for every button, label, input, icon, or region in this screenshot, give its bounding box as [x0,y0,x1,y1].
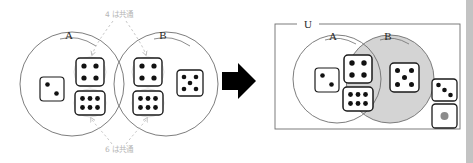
die-a-4 [76,58,104,86]
die-right-6 [343,87,373,111]
left-set-b-label: B [159,29,166,41]
die-right-2 [315,68,339,92]
universe-label: U [304,18,312,30]
die-a-6 [75,91,105,115]
figure-canvas: A B [0,0,473,163]
die-b-5 [177,70,203,96]
die-right-4 [344,55,372,83]
annotation-four-common-label: 4 は共通 [105,9,134,19]
right-set-a-label: A [329,30,337,42]
die-right-5 [390,63,419,92]
die-a-2 [40,77,64,101]
left-set-a-label: A [65,29,73,41]
die-b-4 [134,58,162,86]
die-right-1 [432,104,457,128]
annotation-six-common-label: 6 は共通 [105,144,134,154]
page-edge-shadow [466,0,473,163]
right-set-b-label: B [384,30,391,42]
die-b-6 [133,91,163,115]
die-right-3 [432,79,457,101]
